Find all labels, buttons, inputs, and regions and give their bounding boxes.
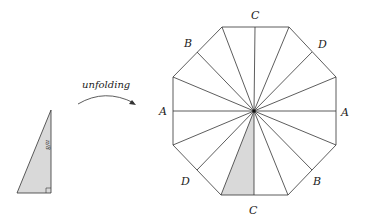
center-point bbox=[252, 109, 255, 112]
label-left-a: A bbox=[158, 105, 167, 118]
unfolding-arrow: unfolding bbox=[78, 79, 136, 105]
label-right-a: A bbox=[340, 106, 349, 119]
label-bottom-c: C bbox=[249, 204, 258, 217]
label-top-left-b: B bbox=[183, 37, 192, 50]
angle-label: π/8 bbox=[45, 139, 52, 150]
right-triangle: π/8 bbox=[17, 110, 52, 193]
label-bottom-left-d: D bbox=[180, 175, 190, 188]
label-top-c: C bbox=[251, 9, 260, 22]
label-top-right-d: D bbox=[317, 38, 327, 51]
unfolding-diagram: π/8 unfolding C B D A A D B C bbox=[0, 0, 365, 223]
unfolding-caption: unfolding bbox=[82, 79, 130, 90]
label-bottom-right-b: B bbox=[312, 175, 321, 188]
octagon bbox=[173, 27, 336, 195]
